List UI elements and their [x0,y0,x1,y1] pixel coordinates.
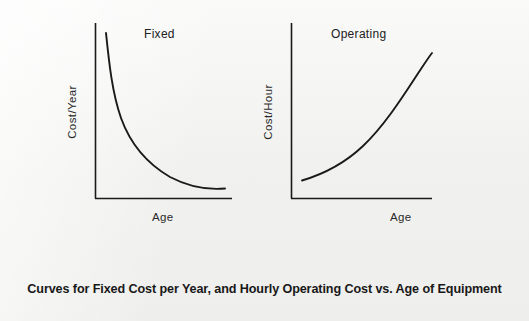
fixed-cost-curve [106,33,225,189]
x-axis-label-age-right: Age [390,211,412,223]
figure-caption: Curves for Fixed Cost per Year, and Hour… [0,282,529,296]
y-axis-label-cost-per-year: Cost/Year [66,80,78,144]
chart-operating-cost [250,0,529,240]
series-label-operating: Operating [331,27,386,41]
chart-fixed-cost-svg [0,0,265,240]
figure-container: Cost/Year Age Fixed Cost/Hour Age Operat… [0,0,529,321]
x-axis-label-age-left: Age [152,211,174,223]
chart-operating-cost-svg [250,0,529,240]
y-axis-label-cost-per-hour: Cost/Hour [262,80,274,144]
chart-fixed-cost [0,0,265,240]
operating-cost-curve [302,53,432,181]
series-label-fixed: Fixed [144,27,175,41]
